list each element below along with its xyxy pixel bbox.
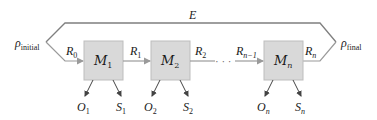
module-label-1: M1 xyxy=(94,53,112,68)
edge-label-rn-1: Rn−1 xyxy=(236,45,257,59)
edge-label-rn: Rn xyxy=(305,45,316,59)
output-label-s2: S2 xyxy=(183,101,193,115)
output-label-o1: O1 xyxy=(77,101,90,115)
output-arrow-on xyxy=(265,80,273,96)
output-arrow-o2 xyxy=(152,80,160,96)
output-arrow-sn xyxy=(293,80,301,96)
edge-label-r0: R0 xyxy=(66,45,77,59)
module-label-n: Mn xyxy=(274,53,292,68)
output-label-on: On xyxy=(257,101,270,115)
output-label-o2: O2 xyxy=(144,101,157,115)
environment-line xyxy=(46,23,336,42)
edge-label-r1: R1 xyxy=(130,45,141,59)
edge-label-r2: R2 xyxy=(195,45,206,59)
environment-label: E xyxy=(189,9,196,21)
rho-final-label: ρfinal xyxy=(341,37,361,51)
rho-initial-label: ρinitial xyxy=(15,37,39,51)
ellipsis: · · · xyxy=(215,55,232,67)
initial-connector xyxy=(46,42,83,61)
output-label-sn: Sn xyxy=(295,101,305,115)
output-label-s1: S1 xyxy=(116,101,126,115)
output-arrow-o1 xyxy=(85,80,93,96)
output-arrow-s2 xyxy=(180,80,188,96)
module-label-2: M2 xyxy=(161,53,179,68)
output-arrow-s1 xyxy=(113,80,121,96)
